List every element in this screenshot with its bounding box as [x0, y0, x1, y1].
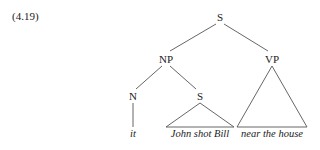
leaf-john-shot-bill: John shot Bill [171, 128, 229, 139]
node-vp: VP [265, 53, 279, 65]
edge-np-n [136, 66, 162, 89]
node-s-embedded: S [197, 90, 203, 102]
node-np: NP [159, 53, 173, 65]
leaf-it: it [130, 128, 137, 139]
leaf-near-the-house: near the house [241, 128, 303, 139]
edge-np-s [170, 66, 196, 89]
edge-s-vp [224, 24, 268, 51]
syntax-tree: S NP VP N S it John shot Bill near the h… [0, 0, 320, 150]
node-n: N [129, 90, 137, 102]
edge-s-np [170, 24, 216, 51]
triangle-embedded-s [166, 103, 234, 127]
node-s-root: S [217, 11, 223, 23]
triangle-vp [237, 66, 307, 127]
